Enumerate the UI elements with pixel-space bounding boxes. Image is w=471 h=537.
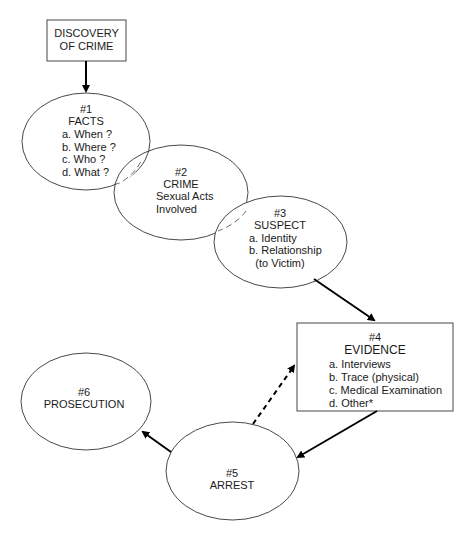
investigation-flow-diagram: DISCOVERY OF CRIME #1 FACTS a. When ? b.… [0,0,471,537]
arrest-title: ARREST [210,479,255,491]
facts-item-where: b. Where ? [62,141,116,153]
suspect-item-to-victim: (to Victim) [255,257,304,269]
arrest-ellipse: #5 ARREST [166,422,299,520]
prosecution-ellipse: #6 PROSECUTION [21,353,151,450]
suspect-item-relationship: b. Relationship [249,244,322,256]
facts-item-who: c. Who ? [62,153,105,165]
facts-number: #1 [80,103,92,115]
prosecution-title: PROSECUTION [44,398,125,410]
suspect-number: #3 [274,207,286,219]
crime-title: CRIME [163,178,198,190]
discovery-line-2: OF CRIME [60,40,114,52]
evidence-item-other: d. Other* [329,397,374,409]
evidence-item-interviews: a. Interviews [329,358,391,370]
arrow-suspect-to-evidence [314,279,374,320]
facts-item-what: d. What ? [62,166,109,178]
suspect-ellipse: #3 SUSPECT a. Identity b. Relationship (… [214,196,347,288]
suspect-item-identity: a. Identity [249,232,297,244]
prosecution-number: #6 [78,386,90,398]
evidence-title: EVIDENCE [344,343,405,357]
facts-item-when: a. When ? [62,128,112,140]
evidence-item-medical: c. Medical Examination [329,384,442,396]
arrow-evidence-to-arrest [298,411,377,457]
suspect-title: SUSPECT [254,219,306,231]
arrow-arrest-to-prosecution [143,432,171,452]
discovery-of-crime-box: DISCOVERY OF CRIME [47,20,126,61]
evidence-box: #4 EVIDENCE a. Interviews b. Trace (phys… [297,323,453,411]
evidence-item-trace: b. Trace (physical) [329,371,419,383]
crime-number: #2 [175,166,187,178]
crime-detail-1: Sexual Acts [156,190,214,202]
arrest-number: #5 [226,467,238,479]
facts-title: FACTS [68,115,103,127]
evidence-number: #4 [369,331,381,343]
discovery-line-1: DISCOVERY [54,27,119,39]
dashed-arrow-arrest-to-evidence [253,366,294,424]
crime-detail-2: Involved [156,203,197,215]
